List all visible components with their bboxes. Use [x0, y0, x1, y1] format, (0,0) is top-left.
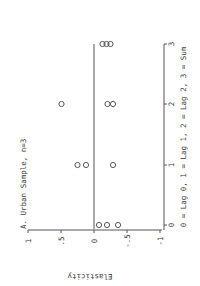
point-lag1-b	[83, 162, 88, 167]
x-tick-label: 2	[167, 102, 176, 107]
point-lag0-a	[96, 222, 101, 227]
point-lag2-c	[110, 101, 115, 106]
y-axis-title: Elasticity	[67, 272, 113, 281]
point-lag0-c	[115, 222, 120, 227]
x-tick-label: 3	[167, 42, 176, 47]
x-axis-title: 0 = Lag 0, 1 = Lag 1, 2 = Lag 2, 3 = Sum	[179, 46, 188, 227]
x-tick-label: 0	[167, 222, 176, 227]
y-tick-labels: 1 .5 0 -.5 -1	[24, 234, 165, 248]
data-points	[59, 41, 121, 227]
point-lag1-c	[110, 162, 115, 167]
scatter-chart: 1 .5 0 -.5 -1 0 1 2 3 0 = Lag 0, 1 = Lag…	[0, 0, 200, 286]
point-lag1-a	[75, 162, 80, 167]
plot-area: 1 .5 0 -.5 -1 0 1 2 3 0 = Lag 0, 1 = Lag…	[19, 41, 188, 281]
x-tick-label: 1	[167, 163, 176, 168]
point-lag0-b	[104, 222, 109, 227]
y-tick-label: 1	[24, 239, 33, 244]
chart-title: A. Urban Sample, n=3	[19, 139, 28, 229]
y-tick-label: -.5	[123, 234, 132, 248]
x-tick-labels: 0 1 2 3	[167, 42, 176, 228]
point-lag2-a	[59, 101, 64, 106]
y-tick-label: -1	[156, 236, 165, 245]
point-lag2-b	[105, 101, 110, 106]
y-tick-label: 0	[90, 238, 99, 243]
y-tick-label: .5	[57, 236, 66, 245]
